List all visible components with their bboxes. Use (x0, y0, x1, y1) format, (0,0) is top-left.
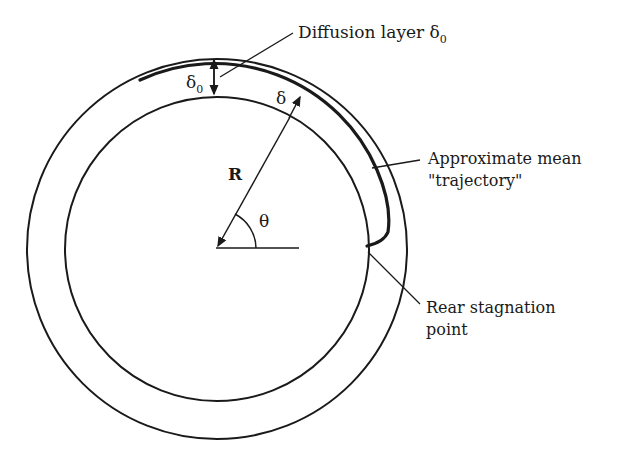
rear-stagnation-label-line2: point (426, 320, 468, 339)
rear-stagnation-label-line1: Rear stagnation (426, 298, 556, 317)
theta-symbol: θ (259, 211, 269, 231)
outer-circle (27, 59, 407, 439)
inner-circle (65, 97, 369, 401)
mean-trajectory-label-line2: "trajectory" (428, 171, 522, 190)
theta-arc (235, 214, 256, 248)
delta0-symbol: δ0 (186, 72, 203, 96)
mean-trajectory-leader (372, 160, 420, 168)
rear-stagnation-leader (368, 252, 420, 304)
radius-symbol: R (228, 164, 243, 184)
diffusion-layer-diagram: Diffusion layer δ0 Approximate mean "tra… (0, 0, 628, 457)
delta-arrow (289, 97, 300, 118)
mean-trajectory-label-line1: Approximate mean (427, 149, 582, 168)
diffusion-layer-label: Diffusion layer δ0 (298, 22, 447, 46)
delta-symbol: δ (276, 88, 286, 108)
